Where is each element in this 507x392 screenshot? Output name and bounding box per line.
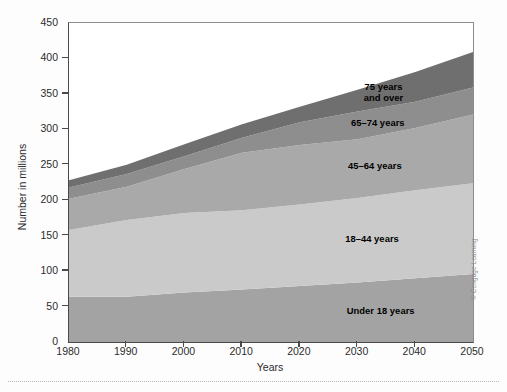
x-tick-mark bbox=[125, 341, 126, 347]
x-tick-mark bbox=[356, 341, 357, 347]
x-tick-mark bbox=[298, 341, 299, 347]
y-axis-title: Number in millions bbox=[16, 97, 28, 277]
copyright-credit: © Cengage Learning bbox=[470, 238, 477, 300]
page-divider bbox=[8, 381, 499, 382]
plot-area: 75 years and over 65–74 years 45–64 year… bbox=[68, 22, 474, 343]
y-tick-label: 200 bbox=[2, 193, 58, 205]
y-tick-mark bbox=[62, 163, 68, 164]
figure-container: 75 years and over 65–74 years 45–64 year… bbox=[0, 0, 507, 392]
stacked-area-chart bbox=[69, 23, 473, 342]
y-tick-label: 350 bbox=[2, 87, 58, 99]
y-tick-label: 150 bbox=[2, 229, 58, 241]
y-tick-mark bbox=[62, 57, 68, 58]
y-tick-mark bbox=[62, 92, 68, 93]
y-tick-mark bbox=[62, 128, 68, 129]
x-tick-label: 2050 bbox=[442, 345, 502, 357]
series-label-75-and-over: 75 years and over bbox=[324, 81, 444, 103]
y-tick-label: 300 bbox=[2, 122, 58, 134]
x-tick-mark bbox=[240, 341, 241, 347]
x-tick-label: 1980 bbox=[38, 345, 98, 357]
y-tick-label: 450 bbox=[2, 16, 58, 28]
series-label-18-44: 18–44 years bbox=[312, 233, 432, 244]
x-tick-mark bbox=[183, 341, 184, 347]
y-tick-label: 250 bbox=[2, 158, 58, 170]
y-tick-label: 400 bbox=[2, 51, 58, 63]
x-tick-mark bbox=[414, 341, 415, 347]
y-tick-mark bbox=[62, 305, 68, 306]
y-tick-label: 50 bbox=[2, 300, 58, 312]
x-axis-title: Years bbox=[68, 361, 472, 373]
y-tick-mark bbox=[62, 269, 68, 270]
y-tick-mark bbox=[62, 199, 68, 200]
series-label-65-74: 65–74 years bbox=[318, 117, 438, 128]
y-tick-mark bbox=[62, 234, 68, 235]
series-label-under-18: Under 18 years bbox=[321, 306, 441, 317]
series-label-45-64: 45–64 years bbox=[315, 160, 435, 171]
y-axis: 050100150200250300350400450 bbox=[0, 0, 66, 392]
y-tick-label: 100 bbox=[2, 264, 58, 276]
